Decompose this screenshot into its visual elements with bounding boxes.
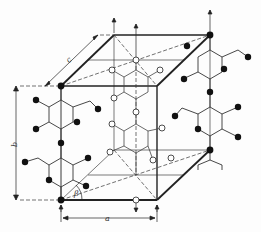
label-b: b [10, 142, 19, 147]
unit-cell-diagram: c b a β [0, 0, 261, 232]
label-beta: β [73, 189, 79, 198]
diagram-canvas: c b a β [0, 0, 261, 232]
label-a: a [105, 214, 110, 223]
